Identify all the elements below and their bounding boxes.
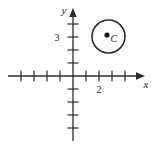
coordinate-plane-figure: C 3 2 y x — [0, 0, 155, 150]
circle-center-point — [104, 32, 109, 37]
y-tick-label-3: 3 — [55, 32, 60, 43]
y-axis-arrowhead-icon — [69, 8, 77, 17]
x-tick-label-2: 2 — [97, 84, 102, 95]
y-axis-label: y — [61, 4, 67, 16]
x-axis-label: x — [143, 78, 149, 90]
circle-center-label: C — [111, 33, 118, 44]
coordinate-plane-svg: C 3 2 y x — [0, 0, 155, 150]
